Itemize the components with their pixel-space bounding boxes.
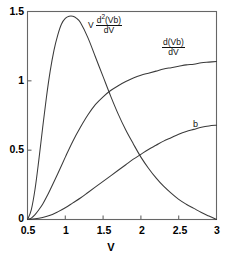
x-tick-label-1p5: 1.5 (89, 224, 119, 236)
series-label-denominator: dV (96, 26, 122, 35)
curve-series-2 (28, 61, 217, 219)
series-label-dvb-dv: d(Vb)dV (162, 38, 185, 57)
y-tick-label-0p5: 0.5 (0, 143, 24, 155)
x-axis-ticks (65, 216, 178, 220)
curve-series-1 (28, 16, 217, 219)
data-curves (28, 16, 217, 219)
x-tick-label-2p5: 2.5 (165, 224, 195, 236)
series-label-lead: V (88, 21, 96, 30)
plot-area (0, 0, 230, 262)
x-tick-label-0p5: 0.5 (13, 224, 43, 236)
series2-denominator: dV (162, 48, 185, 57)
x-axis-title: V (99, 241, 123, 253)
y-tick-label-1: 1 (0, 74, 24, 86)
x-tick-label-2: 2 (127, 224, 157, 236)
series-label-fraction: d2(Vb)dV (96, 16, 122, 35)
series-label-b: b (193, 119, 198, 129)
chart-container: 1.5 1 0.5 0 0.5 1 1.5 2 2.5 3 V Vd2(Vb)d… (0, 0, 230, 262)
series-label-v-d2vb-dv: Vd2(Vb)dV (88, 16, 122, 35)
y-tick-label-0: 0 (0, 212, 24, 224)
y-tick-label-1p5: 1.5 (0, 5, 24, 17)
x-tick-label-1: 1 (51, 224, 81, 236)
y-axis-ticks (28, 81, 32, 150)
series2-fraction: d(Vb)dV (162, 38, 185, 57)
series-label-num-tail: (Vb) (105, 15, 121, 25)
x-tick-label-3: 3 (202, 224, 230, 236)
